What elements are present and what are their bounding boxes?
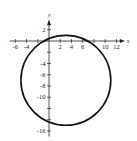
x-axis-arrow-icon	[120, 39, 125, 43]
y-tick-label: -8	[40, 82, 45, 89]
x-axis-label: x	[126, 38, 130, 44]
x-tick-label: 10	[102, 43, 109, 50]
tick-labels: -6-424610122-4-6-8-10-16	[13, 26, 120, 134]
y-tick-label: -6	[40, 71, 46, 78]
x-tick-label: 12	[113, 43, 120, 50]
y-axis-arrow-icon	[47, 19, 51, 25]
x-tick-label: -4	[24, 43, 30, 50]
x-tick-label: 4	[70, 43, 74, 50]
y-tick-label: 2	[42, 26, 45, 33]
x-tick-label: -6	[13, 43, 19, 50]
y-axis-label: y	[47, 12, 51, 18]
y-tick-label: -10	[37, 93, 46, 100]
chart-svg: xy -6-424610122-4-6-8-10-16	[0, 0, 137, 141]
x-tick-label: 2	[59, 43, 62, 50]
y-tick-label: -4	[40, 60, 46, 67]
circle-curve	[21, 35, 111, 125]
x-tick-label: 6	[81, 43, 85, 50]
circle-chart: xy -6-424610122-4-6-8-10-16	[0, 0, 137, 141]
y-tick-label: -16	[37, 127, 46, 134]
axes: xy	[10, 12, 130, 136]
